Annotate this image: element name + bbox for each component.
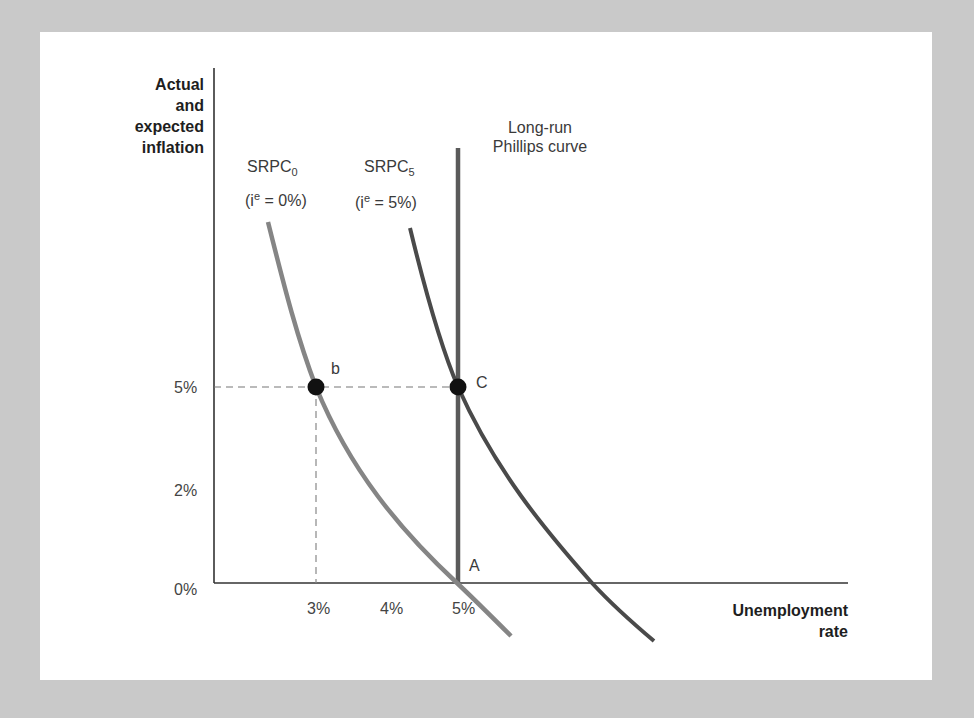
lrpc-label-line: Phillips curve [480, 137, 600, 156]
srpc5-label: SRPC5 [364, 158, 415, 178]
x-tick-4: 4% [380, 600, 403, 618]
srpc0-label: SRPC0 [247, 158, 298, 178]
srpc0-label-sub: 0 [291, 166, 297, 178]
y-tick-0: 0% [174, 581, 197, 599]
srpc5-label-main: SRPC [364, 158, 408, 175]
x-tick-3: 3% [307, 600, 330, 618]
srpc5-exp-open: (i [355, 194, 364, 211]
point-c-label: C [476, 374, 488, 392]
point-c-marker [450, 379, 467, 396]
y-tick-5: 5% [174, 379, 197, 397]
x-axis-title-line: rate [690, 621, 848, 642]
x-axis-title: Unemployment rate [690, 600, 848, 642]
x-tick-5: 5% [452, 600, 475, 618]
srpc5-expectation: (ie = 5%) [355, 192, 417, 212]
srpc0-label-main: SRPC [247, 158, 291, 175]
y-axis-title-line: expected [96, 116, 204, 137]
srpc5-curve [410, 228, 654, 641]
srpc5-label-sub: 5 [408, 166, 414, 178]
y-axis-title-line: Actual [96, 74, 204, 95]
x-axis-title-line: Unemployment [690, 600, 848, 621]
srpc0-exp-open: (i [245, 192, 254, 209]
srpc0-exp-rest: = 0%) [260, 192, 307, 209]
y-axis-title: Actual and expected inflation [96, 74, 204, 158]
srpc5-exp-rest: = 5%) [370, 194, 417, 211]
point-b-marker [308, 379, 325, 396]
y-axis-title-line: inflation [96, 137, 204, 158]
y-tick-2: 2% [174, 482, 197, 500]
lrpc-label: Long-run Phillips curve [480, 118, 600, 156]
srpc0-expectation: (ie = 0%) [245, 190, 307, 210]
y-axis-title-line: and [96, 95, 204, 116]
lrpc-label-line: Long-run [480, 118, 600, 137]
point-b-label: b [331, 360, 340, 378]
point-a-label: A [469, 557, 480, 575]
